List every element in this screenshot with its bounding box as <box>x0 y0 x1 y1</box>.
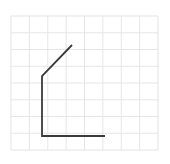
canvas-background <box>0 0 170 164</box>
figure-canvas <box>0 0 170 164</box>
figure-container <box>0 0 170 164</box>
